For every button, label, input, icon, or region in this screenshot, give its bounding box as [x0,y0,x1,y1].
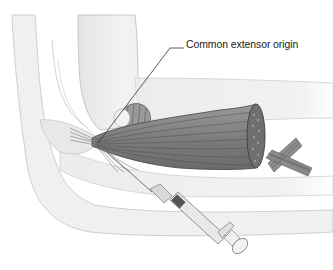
common-extensor-origin-label: Common extensor origin [186,38,298,50]
elbow-injection-illustration: Common extensor origin [0,0,333,270]
deep-crossing-muscles [266,138,312,176]
